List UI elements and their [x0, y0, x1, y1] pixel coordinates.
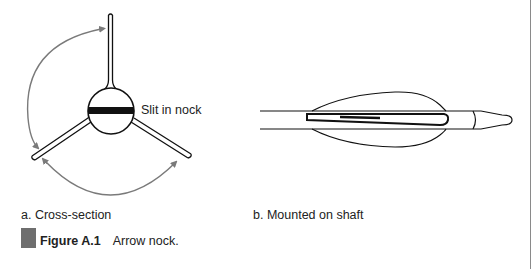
figure-number: Figure A.1	[40, 234, 101, 248]
figure: Slit in nock a. Cross-section b. Mounted…	[0, 0, 532, 269]
right-vane	[131, 118, 191, 158]
angle-arrow-upper-left	[28, 29, 101, 148]
left-vane	[32, 112, 91, 160]
page-border-line	[530, 0, 531, 269]
slit-annotation: Slit in nock	[141, 103, 201, 117]
shaft-diagram	[260, 92, 512, 147]
angle-arrow-bottom	[46, 162, 176, 195]
vane-outline-bottom	[312, 129, 446, 147]
vane-base	[307, 114, 448, 125]
figure-caption-text: Arrow nock.	[113, 234, 179, 248]
nock-cap	[473, 111, 512, 129]
figure-caption: Figure A.1 Arrow nock.	[21, 234, 179, 248]
vane-outline-top	[312, 92, 446, 111]
caption-marker-icon	[21, 228, 36, 248]
subfigure-label-a: a. Cross-section	[21, 208, 111, 222]
nock-slit	[88, 107, 134, 114]
diagram-canvas	[0, 0, 532, 269]
nock-cap-ring	[473, 111, 476, 129]
top-vane	[104, 14, 117, 90]
subfigure-label-b: b. Mounted on shaft	[253, 208, 364, 222]
